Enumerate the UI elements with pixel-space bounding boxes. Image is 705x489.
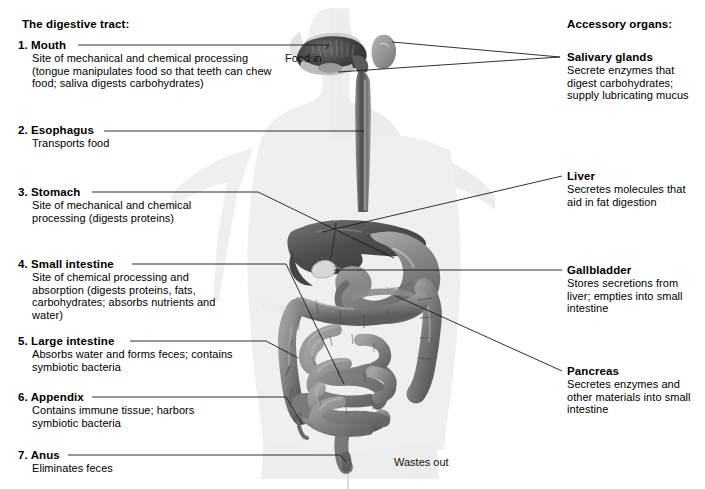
tract-item-appendix-number: 6. bbox=[18, 391, 28, 403]
tract-item-small-intestine-title: 4. Small intestine bbox=[18, 258, 233, 271]
accessory-item-gallbladder-desc: Stores secretions from liver; empties in… bbox=[567, 277, 697, 315]
labels-layer: The digestive tract: Accessory organs: F… bbox=[0, 0, 705, 489]
tract-item-appendix[interactable]: 6. Appendix Contains immune tissue; harb… bbox=[18, 391, 233, 429]
tract-item-small-intestine-desc: Site of chemical processing and absorpti… bbox=[18, 271, 233, 321]
tract-item-anus[interactable]: 7. Anus Eliminates feces bbox=[18, 449, 218, 475]
tract-item-appendix-desc: Contains immune tissue; harbors symbioti… bbox=[18, 404, 233, 429]
wastes-out-label: Wastes out bbox=[394, 456, 449, 468]
tract-item-mouth-number: 1. bbox=[18, 39, 28, 51]
right-column-heading: Accessory organs: bbox=[567, 18, 672, 30]
accessory-item-liver-desc: Secretes molecules that aid in fat diges… bbox=[567, 183, 697, 208]
accessory-item-gallbladder-title: Gallbladder bbox=[567, 264, 697, 277]
tract-item-esophagus-desc: Transports food bbox=[18, 137, 258, 150]
digestive-system-figure: The digestive tract: Accessory organs: F… bbox=[0, 0, 705, 489]
left-column-heading: The digestive tract: bbox=[22, 18, 129, 30]
tract-item-mouth-title: 1. Mouth bbox=[18, 39, 278, 52]
tract-item-small-intestine-number: 4. bbox=[18, 258, 28, 270]
tract-item-appendix-title: 6. Appendix bbox=[18, 391, 233, 404]
tract-item-stomach-number: 3. bbox=[18, 186, 28, 198]
tract-item-esophagus[interactable]: 2. Esophagus Transports food bbox=[18, 124, 258, 150]
tract-item-small-intestine[interactable]: 4. Small intestine Site of chemical proc… bbox=[18, 258, 233, 321]
tract-item-esophagus-name: Esophagus bbox=[31, 124, 94, 136]
accessory-item-gallbladder[interactable]: Gallbladder Stores secretions from liver… bbox=[567, 264, 697, 315]
food-in-label: Food in bbox=[285, 52, 322, 64]
tract-item-anus-desc: Eliminates feces bbox=[18, 462, 218, 475]
tract-item-anus-number: 7. bbox=[18, 449, 28, 461]
accessory-item-salivary-glands-title: Salivary glands bbox=[567, 51, 697, 64]
accessory-item-pancreas-desc: Secretes enzymes and other materials int… bbox=[567, 378, 697, 416]
tract-item-stomach-desc: Site of mechanical and chemical processi… bbox=[18, 199, 228, 224]
tract-item-mouth[interactable]: 1. Mouth Site of mechanical and chemical… bbox=[18, 39, 278, 90]
tract-item-appendix-name: Appendix bbox=[31, 391, 84, 403]
accessory-item-salivary-glands-desc: Secrete enzymes that digest carbohydrate… bbox=[567, 64, 697, 102]
tract-item-esophagus-number: 2. bbox=[18, 124, 28, 136]
tract-item-stomach-title: 3. Stomach bbox=[18, 186, 228, 199]
tract-item-large-intestine[interactable]: 5. Large intestine Absorbs water and for… bbox=[18, 335, 243, 373]
tract-item-anus-title: 7. Anus bbox=[18, 449, 218, 462]
tract-item-large-intestine-desc: Absorbs water and forms feces; contains … bbox=[18, 348, 243, 373]
tract-item-stomach-name: Stomach bbox=[31, 186, 80, 198]
accessory-item-salivary-glands[interactable]: Salivary glands Secrete enzymes that dig… bbox=[567, 51, 697, 102]
tract-item-esophagus-title: 2. Esophagus bbox=[18, 124, 258, 137]
tract-item-mouth-name: Mouth bbox=[31, 39, 66, 51]
accessory-item-liver-title: Liver bbox=[567, 170, 697, 183]
tract-item-mouth-desc: Site of mechanical and chemical processi… bbox=[18, 52, 278, 90]
tract-item-anus-name: Anus bbox=[31, 449, 60, 461]
accessory-item-pancreas-title: Pancreas bbox=[567, 365, 697, 378]
tract-item-large-intestine-number: 5. bbox=[18, 335, 28, 347]
tract-item-small-intestine-name: Small intestine bbox=[31, 258, 114, 270]
accessory-item-pancreas[interactable]: Pancreas Secretes enzymes and other mate… bbox=[567, 365, 697, 416]
tract-item-large-intestine-title: 5. Large intestine bbox=[18, 335, 243, 348]
accessory-item-liver[interactable]: Liver Secretes molecules that aid in fat… bbox=[567, 170, 697, 208]
tract-item-large-intestine-name: Large intestine bbox=[31, 335, 114, 347]
tract-item-stomach[interactable]: 3. Stomach Site of mechanical and chemic… bbox=[18, 186, 228, 224]
